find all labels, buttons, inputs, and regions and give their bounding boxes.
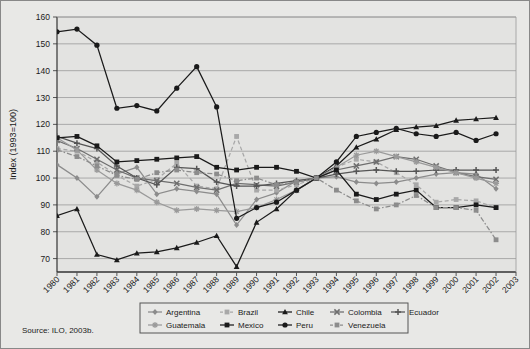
- data-point-marker: [294, 169, 299, 174]
- data-point-marker: [474, 208, 479, 213]
- data-point-marker: [114, 173, 119, 178]
- data-point-marker: [114, 160, 119, 165]
- legend-label: Argentina: [166, 308, 201, 317]
- data-point-marker: [194, 64, 199, 69]
- data-point-marker: [394, 126, 399, 131]
- data-point-marker: [94, 43, 99, 48]
- data-point-marker: [354, 134, 359, 139]
- data-point-marker: [373, 148, 379, 154]
- data-point-marker: [334, 159, 339, 164]
- plot-area-background: [57, 17, 516, 272]
- data-point-marker: [114, 106, 119, 111]
- data-point-marker: [374, 207, 379, 212]
- data-point-marker: [254, 165, 259, 170]
- data-point-marker: [454, 197, 459, 202]
- legend-label: Ecuador: [409, 308, 439, 317]
- data-point-marker: [282, 322, 287, 327]
- data-point-marker: [194, 206, 200, 212]
- data-point-marker: [434, 205, 439, 210]
- data-point-marker: [374, 197, 379, 202]
- legend-label: Guatemala: [166, 321, 206, 330]
- data-point-marker: [174, 86, 179, 91]
- data-point-marker: [134, 158, 139, 163]
- data-point-marker: [473, 175, 479, 181]
- data-point-marker: [334, 168, 339, 173]
- y-tick-label: 140: [36, 66, 50, 76]
- data-point-marker: [353, 152, 359, 158]
- y-tick-label: 100: [36, 173, 50, 183]
- chart-figure: 708090100110120130140150160Index (1993=1…: [0, 0, 530, 349]
- data-point-marker: [134, 177, 139, 182]
- y-tick-label: 90: [41, 200, 51, 210]
- data-point-marker: [394, 192, 399, 197]
- data-point-marker: [234, 134, 239, 139]
- data-point-marker: [214, 207, 220, 213]
- data-point-marker: [134, 187, 140, 193]
- data-point-marker: [394, 202, 399, 207]
- data-point-marker: [114, 180, 120, 186]
- data-point-marker: [274, 165, 279, 170]
- data-point-marker: [174, 156, 179, 161]
- data-point-marker: [274, 200, 279, 205]
- data-point-marker: [214, 172, 219, 177]
- data-point-marker: [294, 188, 299, 193]
- y-tick-label: 160: [36, 12, 50, 22]
- data-point-marker: [414, 188, 419, 193]
- data-point-marker: [134, 103, 139, 108]
- data-point-marker: [294, 180, 299, 185]
- y-tick-label: 70: [41, 254, 51, 264]
- data-point-marker: [494, 237, 499, 242]
- y-axis-title: Index (1993=100): [8, 109, 18, 180]
- data-point-marker: [75, 154, 80, 159]
- data-point-marker: [154, 170, 159, 175]
- data-point-marker: [225, 323, 230, 328]
- legend-label: Chile: [296, 308, 315, 317]
- data-point-marker: [74, 147, 80, 153]
- data-point-marker: [274, 182, 279, 187]
- data-point-marker: [414, 131, 419, 136]
- legend-label: Brazil: [238, 308, 258, 317]
- data-point-marker: [95, 143, 100, 148]
- data-point-marker: [413, 159, 419, 165]
- y-tick-label: 130: [36, 93, 50, 103]
- data-point-marker: [74, 26, 79, 31]
- data-point-marker: [174, 168, 179, 173]
- data-point-marker: [434, 200, 439, 205]
- data-point-marker: [225, 310, 230, 315]
- data-point-marker: [414, 182, 419, 187]
- data-point-marker: [493, 131, 498, 136]
- data-point-marker: [154, 157, 159, 162]
- data-point-marker: [354, 192, 359, 197]
- data-point-marker: [154, 199, 160, 205]
- y-tick-label: 120: [36, 119, 50, 129]
- data-point-marker: [314, 176, 319, 181]
- data-point-marker: [354, 198, 359, 203]
- data-point-marker: [454, 130, 459, 135]
- data-point-marker: [453, 170, 459, 176]
- data-point-marker: [234, 178, 239, 183]
- y-tick-label: 80: [41, 227, 51, 237]
- legend-label: Mexico: [238, 321, 264, 330]
- data-point-marker: [95, 164, 100, 169]
- data-point-marker: [494, 205, 499, 210]
- data-point-marker: [374, 130, 379, 135]
- data-point-marker: [493, 180, 499, 186]
- legend-label: Peru: [296, 321, 313, 330]
- data-point-marker: [454, 205, 459, 210]
- legend-label: Colombia: [348, 308, 382, 317]
- data-point-marker: [433, 164, 439, 170]
- data-point-marker: [214, 104, 219, 109]
- y-tick-label: 150: [36, 39, 50, 49]
- data-point-marker: [334, 188, 339, 193]
- legend-label: Venezuela: [348, 321, 386, 330]
- data-point-marker: [414, 193, 419, 198]
- data-point-marker: [234, 168, 239, 173]
- data-point-marker: [154, 108, 159, 113]
- data-point-marker: [174, 207, 180, 213]
- data-point-marker: [474, 202, 479, 207]
- data-point-marker: [214, 165, 219, 170]
- data-point-marker: [393, 154, 399, 160]
- data-point-marker: [152, 322, 158, 328]
- data-point-marker: [194, 170, 199, 175]
- data-point-marker: [254, 176, 259, 181]
